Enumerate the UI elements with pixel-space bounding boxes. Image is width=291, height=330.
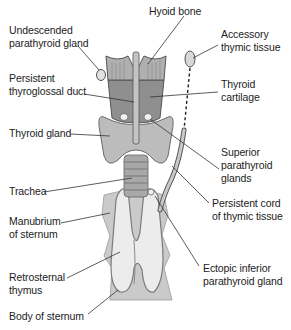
thyroglossal-duct [133, 52, 139, 144]
label-accessory-thymic-tissue: Accessory thymic tissue [221, 28, 280, 54]
label-manubrium-of-sternum: Manubrium of sternum [9, 215, 61, 241]
label-retrosternal-thymus: Retrosternal thymus [9, 271, 65, 297]
ectopic-inferior-parathyroid [148, 189, 154, 195]
undescended-parathyroid [97, 70, 106, 81]
dashed-migration-path [184, 68, 190, 130]
accessory-thymic-tissue [185, 51, 195, 67]
label-thyroid-cartilage: Thyroid cartilage [221, 78, 260, 104]
label-persistent-cord-thymic: Persistent cord of thymic tissue [212, 197, 283, 223]
label-thyroid-gland: Thyroid gland [9, 127, 71, 140]
label-superior-parathyroid-glands: Superior parathyroid glands [221, 146, 272, 185]
label-undescended-parathyroid: Undescended parathyroid gland [9, 24, 88, 50]
label-trachea: Trachea [9, 185, 46, 198]
anatomy-diagram: Hyoid bone Undescended parathyroid gland… [0, 0, 291, 330]
label-ectopic-inferior-parathyroid: Ectopic inferior parathyroid gland [203, 262, 282, 288]
trachea [124, 155, 148, 197]
label-body-of-sternum: Body of sternum [9, 310, 84, 323]
label-hyoid-bone: Hyoid bone [149, 5, 201, 18]
label-persistent-thyroglossal-duct: Persistent thyroglossal duct [9, 72, 86, 98]
